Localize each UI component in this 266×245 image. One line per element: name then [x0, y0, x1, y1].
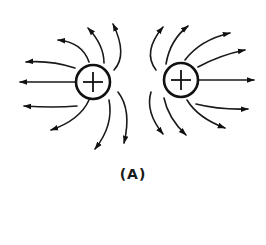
figure-caption: (A)	[0, 166, 266, 182]
field-diagram	[0, 0, 266, 245]
left-charge-field-lines	[20, 24, 127, 149]
left-positive-charge	[76, 65, 110, 99]
right-positive-charge	[164, 63, 198, 97]
